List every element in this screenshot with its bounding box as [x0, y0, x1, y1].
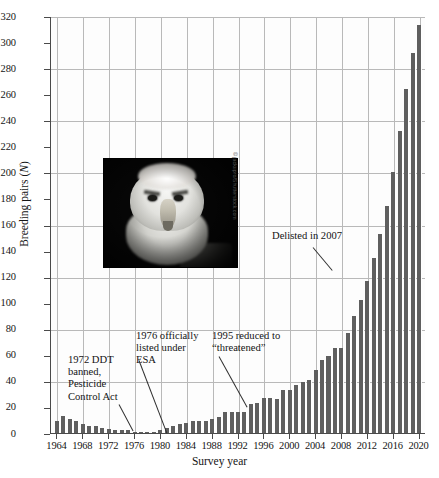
x-tick-mark-1984 [186, 434, 187, 439]
photo-credit-watermark: © jackupro/Shutterstock.com [232, 152, 238, 220]
bar-2009 [346, 333, 351, 433]
y-tick-label-20: 20 [0, 402, 16, 412]
y-axis-label-paren: ( [18, 173, 30, 180]
bar-1966 [68, 419, 73, 433]
y-tick-label-60: 60 [0, 350, 16, 360]
y-tick-label-180: 180 [0, 194, 16, 204]
y-tick-mark-40 [44, 382, 50, 383]
y-tick-label-40: 40 [0, 376, 16, 386]
bar-2013 [372, 258, 377, 433]
bar-1979 [152, 432, 157, 433]
bar-1980 [158, 430, 163, 433]
y-axis-label: Breeding pairs (N) [18, 94, 30, 314]
bar-1984 [184, 423, 189, 433]
y-tick-label-300: 300 [0, 38, 16, 48]
bar-1987 [204, 421, 209, 433]
y-tick-mark-260 [44, 95, 50, 96]
x-tick-mark-2012 [367, 434, 368, 439]
bar-1990 [223, 412, 228, 433]
y-tick-mark-160 [44, 226, 50, 227]
y-tick-label-80: 80 [0, 324, 16, 334]
gridline-v-2000 [290, 17, 291, 433]
bar-1996 [262, 398, 267, 433]
bald-eagle-photo [103, 158, 238, 268]
annotation-ddt: 1972 DDT banned, Pesticide Control Act [68, 354, 136, 403]
y-tick-mark-300 [44, 43, 50, 44]
bar-2007 [333, 348, 338, 433]
bar-2014 [378, 234, 383, 433]
bar-1991 [230, 412, 235, 433]
bar-2020 [417, 25, 422, 433]
bar-1997 [268, 398, 273, 433]
x-tick-mark-1980 [160, 434, 161, 439]
y-tick-mark-0 [44, 434, 50, 435]
y-tick-label-0: 0 [0, 429, 16, 439]
x-tick-label-2020: 2020 [399, 440, 439, 451]
bar-2001 [294, 385, 299, 433]
x-tick-mark-2016 [393, 434, 394, 439]
x-tick-mark-2008 [341, 434, 342, 439]
x-tick-mark-2004 [315, 434, 316, 439]
bar-1970 [94, 426, 99, 433]
x-tick-mark-1976 [134, 434, 135, 439]
bar-2011 [359, 300, 364, 433]
bar-1988 [210, 419, 215, 433]
x-tick-mark-1964 [56, 434, 57, 439]
x-tick-mark-1972 [108, 434, 109, 439]
y-tick-label-280: 280 [0, 64, 16, 74]
x-tick-mark-2020 [419, 434, 420, 439]
y-tick-mark-220 [44, 147, 50, 148]
bar-2010 [352, 316, 357, 433]
bar-2017 [398, 131, 403, 433]
y-tick-label-100: 100 [0, 298, 16, 308]
bar-1965 [61, 416, 66, 433]
y-tick-mark-100 [44, 304, 50, 305]
y-tick-mark-320 [44, 17, 50, 18]
y-tick-label-160: 160 [0, 220, 16, 230]
bar-1964 [55, 421, 60, 433]
bar-2008 [339, 348, 344, 433]
y-tick-mark-60 [44, 356, 50, 357]
y-tick-label-200: 200 [0, 168, 16, 178]
bar-1974 [120, 430, 125, 433]
y-tick-mark-20 [44, 408, 50, 409]
x-tick-mark-1992 [238, 434, 239, 439]
bar-2015 [385, 206, 390, 433]
bar-2003 [307, 380, 312, 433]
bar-1995 [255, 403, 260, 433]
bar-1999 [281, 390, 286, 433]
annotation-esa: 1976 officially listed under ESA [136, 330, 214, 367]
y-axis-label-paren-close: ) [18, 161, 30, 165]
bar-1994 [249, 404, 254, 433]
gridline-v-1996 [264, 17, 265, 433]
bar-1985 [191, 421, 196, 433]
y-tick-mark-140 [44, 252, 50, 253]
bar-1986 [197, 421, 202, 433]
bar-2016 [391, 172, 396, 433]
annotation-delisted: Delisted in 2007 [272, 230, 376, 242]
y-tick-label-140: 140 [0, 246, 16, 256]
bar-1976 [133, 432, 138, 433]
bar-1982 [171, 426, 176, 433]
x-axis-label: Survey year [0, 455, 439, 467]
y-tick-label-260: 260 [0, 90, 16, 100]
bar-1989 [217, 417, 222, 433]
y-tick-mark-240 [44, 121, 50, 122]
bar-2012 [365, 281, 370, 433]
bar-1977 [139, 432, 144, 433]
y-tick-mark-120 [44, 278, 50, 279]
y-tick-mark-200 [44, 173, 50, 174]
bar-2005 [320, 360, 325, 433]
bar-2004 [314, 370, 319, 433]
bar-1993 [242, 412, 247, 433]
bar-2002 [301, 382, 306, 433]
bar-1978 [145, 432, 150, 433]
y-tick-label-120: 120 [0, 272, 16, 282]
y-tick-mark-280 [44, 69, 50, 70]
gridline-v-1964 [57, 17, 58, 433]
bar-2018 [404, 89, 409, 433]
photo-vignette [104, 159, 237, 267]
bar-1998 [275, 399, 280, 433]
y-tick-label-220: 220 [0, 142, 16, 152]
y-tick-mark-80 [44, 330, 50, 331]
